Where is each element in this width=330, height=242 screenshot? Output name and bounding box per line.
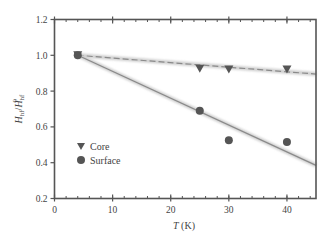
legend: Core Surface <box>77 141 121 166</box>
legend-item-core: Core <box>77 141 110 152</box>
data-point-surface <box>283 138 291 146</box>
data-point-surface <box>74 51 82 59</box>
circle-marker-icon <box>77 156 85 164</box>
x-axis-label: T (K) <box>173 220 195 232</box>
legend-item-surface: Surface <box>77 155 121 166</box>
svg-text:Hhf/Hhf0: Hhf/Hhf0 <box>11 94 26 125</box>
x-tick-label: 30 <box>224 205 234 215</box>
svg-text:Core: Core <box>90 141 110 152</box>
plot-frame <box>55 20 317 199</box>
x-tick-label: 10 <box>108 205 118 215</box>
triangle-down-marker-icon <box>77 143 85 150</box>
x-tick-label: 20 <box>166 205 176 215</box>
axis-ticks <box>51 17 311 202</box>
svg-text:Surface: Surface <box>90 155 121 166</box>
y-tick-label: 1.0 <box>36 51 48 61</box>
data-point-core <box>195 65 204 73</box>
y-tick-label: 0.6 <box>36 122 48 132</box>
y-tick-label: 0.4 <box>36 158 48 168</box>
data-point-surface <box>196 107 204 115</box>
y-tick-label: 1.2 <box>36 15 48 25</box>
y-axis-label: Hhf/Hhf0 <box>11 94 26 125</box>
y-tick-label: 0.8 <box>36 87 48 97</box>
x-tick-label: 40 <box>282 205 292 215</box>
data-point-surface <box>225 136 233 144</box>
y-tick-label: 0.2 <box>36 194 48 204</box>
axis-tick-labels: 0102030400.20.40.60.81.01.2 <box>36 15 292 215</box>
data-point-core <box>224 66 233 74</box>
chart: 0102030400.20.40.60.81.01.2 Hhf/Hhf0 T (… <box>0 0 330 242</box>
x-tick-label: 0 <box>52 205 57 215</box>
